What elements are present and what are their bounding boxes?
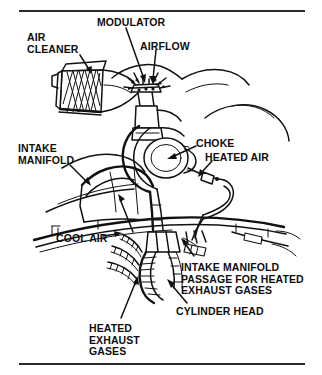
callout-choke: CHOKE [196, 138, 234, 150]
callout-intake-manifold: INTAKE MANIFOLD [18, 143, 74, 166]
leader-heated-exhaust-gases [121, 276, 139, 318]
heated-air-hose-right [192, 180, 233, 240]
carburetor-body [132, 106, 184, 140]
intake-manifold-body [80, 166, 153, 222]
callout-air-cleaner: AIR CLEANER [27, 32, 78, 55]
technical-diagram-figure [0, 0, 322, 375]
diagram-canvas [0, 0, 322, 375]
leader-modulator [126, 28, 146, 83]
callout-intake-manifold-passage: INTAKE MANIFOLD PASSAGE FOR HEATED EXHAU… [181, 262, 304, 297]
callout-heated-air: HEATED AIR [205, 152, 269, 164]
callout-cool-air: COOL AIR [56, 233, 108, 245]
callout-modulator: MODULATOR [97, 17, 165, 29]
leader-heated-air-duct-pointer [118, 194, 133, 232]
callout-cylinder-head: CYLINDER HEAD [176, 306, 264, 318]
exhaust-manifold-passage [140, 232, 180, 303]
callout-airflow: AIRFLOW [140, 41, 190, 53]
leader-intake-manifold [70, 165, 91, 186]
callout-heated-exhaust-gases: HEATED EXHAUST GASES [89, 323, 140, 358]
